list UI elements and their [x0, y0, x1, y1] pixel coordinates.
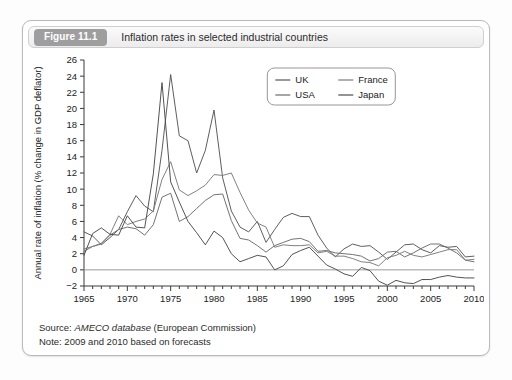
y-tick-label: 18: [66, 119, 77, 130]
x-tick-label: 1985: [247, 293, 268, 304]
y-tick-label: 10: [66, 184, 77, 195]
y-tick-label: 20: [66, 103, 77, 114]
x-tick-label: 2000: [377, 293, 398, 304]
figure-header: Figure 11.1 Inflation rates in selected …: [28, 26, 484, 48]
legend-label-japan: Japan: [358, 89, 384, 100]
x-tick-label: 1990: [290, 293, 311, 304]
y-tick-label: −2: [66, 280, 77, 291]
y-tick-label: 6: [72, 216, 77, 227]
y-tick-label: 2: [72, 248, 77, 259]
figure-title: Inflation rates in selected industrial c…: [121, 31, 328, 43]
x-tick-label: 2005: [420, 293, 441, 304]
legend-label-france: France: [358, 74, 388, 85]
x-tick-label: 2010: [463, 293, 484, 304]
y-tick-label: 14: [66, 151, 77, 162]
x-tick-label: 1965: [73, 293, 94, 304]
figure-number-badge: Figure 11.1: [34, 29, 107, 46]
x-tick-label: 1980: [203, 293, 224, 304]
legend-label-uk: UK: [295, 74, 309, 85]
figure-notes: Source: AMECO database (European Commiss…: [39, 321, 469, 348]
inflation-line-chart: −202468101214161820222426196519701975198…: [28, 52, 484, 320]
source-suffix: (European Commission): [151, 322, 256, 333]
y-tick-label: 8: [72, 200, 77, 211]
y-axis-title: Annual rate of inflation (% change in GD…: [32, 66, 43, 279]
x-tick-label: 1975: [160, 293, 181, 304]
series-line-japan: [84, 83, 474, 286]
y-tick-label: 16: [66, 135, 77, 146]
y-tick-label: 24: [66, 71, 77, 82]
y-tick-label: 12: [66, 167, 77, 178]
y-tick-label: 0: [72, 264, 77, 275]
x-tick-label: 1995: [333, 293, 354, 304]
y-tick-label: 4: [72, 232, 77, 243]
source-prefix: Source:: [39, 322, 74, 333]
source-database-name: AMECO database: [74, 322, 151, 333]
chart-plot-area: −202468101214161820222426196519701975198…: [28, 52, 484, 320]
series-line-france: [84, 162, 474, 266]
figure-card: Figure 11.1 Inflation rates in selected …: [22, 20, 490, 356]
forecast-note: Note: 2009 and 2010 based on forecasts: [39, 335, 469, 349]
x-tick-label: 1970: [117, 293, 138, 304]
source-note: Source: AMECO database (European Commiss…: [39, 321, 469, 335]
y-tick-label: 22: [66, 87, 77, 98]
legend-label-usa: USA: [295, 89, 315, 100]
y-tick-label: 26: [66, 54, 77, 65]
figure-page: Figure 11.1 Inflation rates in selected …: [0, 0, 512, 380]
